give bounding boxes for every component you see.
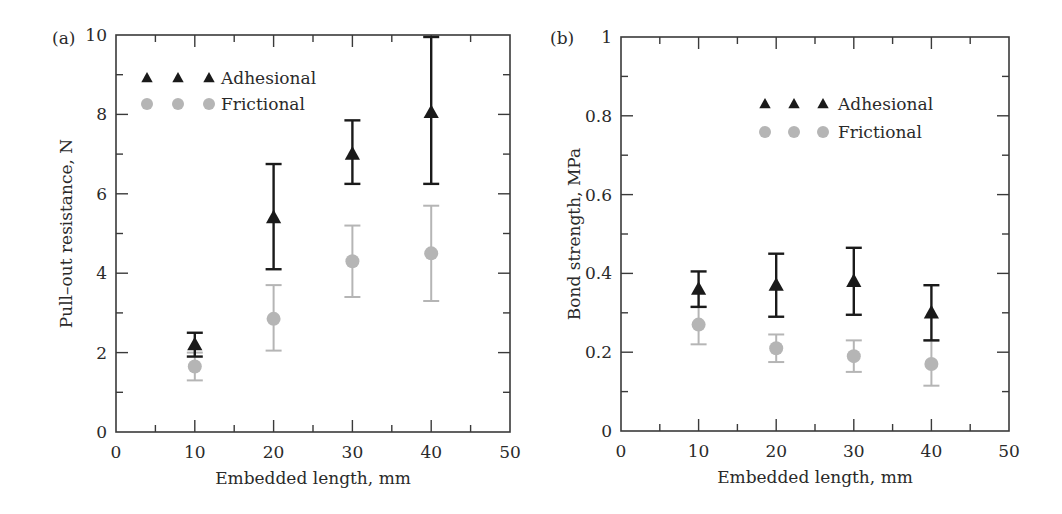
triangle-marker: [187, 337, 202, 351]
panel-label: (b): [550, 28, 574, 48]
triangle-marker-icon: [141, 72, 214, 82]
y-axis-title: Pull–out resistance, N: [56, 139, 76, 329]
circle-icon: [203, 98, 215, 110]
legend-label: Frictional: [221, 94, 305, 114]
x-tick-label: 40: [420, 442, 442, 462]
circle-icon: [759, 126, 771, 138]
legend-item-frictional: Frictional: [759, 122, 922, 142]
triangle-marker: [924, 305, 939, 319]
circle-marker-icon: [141, 98, 215, 110]
y-tick-label: 10: [85, 25, 107, 45]
circle-icon: [788, 126, 800, 138]
y-tick-label: 0: [96, 422, 107, 442]
series-adhesional: [691, 248, 940, 341]
x-tick-label: 40: [921, 441, 943, 461]
triangle-marker-icon: [759, 98, 828, 108]
y-tick-label: 1: [601, 27, 612, 47]
triangle-marker: [424, 104, 439, 118]
legend: Adhesional Frictional: [141, 68, 316, 114]
x-axis-title: Embedded length, mm: [215, 468, 411, 488]
circle-marker-icon: [759, 126, 829, 138]
x-tick-label: 30: [843, 441, 865, 461]
x-tick-label: 0: [616, 441, 627, 461]
circle-marker: [267, 312, 281, 326]
y-tick-label: 0.6: [585, 185, 612, 205]
y-tick-label: 4: [96, 263, 107, 283]
y-tick-label: 0.8: [585, 106, 612, 126]
x-tick-label: 50: [499, 442, 521, 462]
legend-item-adhesional: Adhesional: [141, 68, 316, 88]
triangle-icon: [817, 98, 828, 108]
axes-frame: [621, 37, 1009, 431]
legend-label: Adhesional: [837, 94, 933, 114]
x-axis-title: Embedded length, mm: [717, 467, 913, 487]
circle-marker: [924, 357, 938, 371]
legend-label: Frictional: [838, 122, 922, 142]
triangle-icon: [203, 72, 214, 82]
x-tick-label: 0: [111, 442, 122, 462]
x-tick-label: 20: [263, 442, 285, 462]
axis-tick-labels: 010203040500246810: [85, 25, 520, 462]
circle-marker: [188, 359, 202, 373]
triangle-marker: [691, 281, 706, 295]
circle-marker: [769, 341, 783, 355]
legend-item-adhesional: Adhesional: [759, 94, 933, 114]
y-tick-label: 2: [96, 343, 107, 363]
axes-frame: [116, 35, 510, 432]
y-tick-label: 0.4: [585, 263, 612, 283]
circle-icon: [141, 98, 153, 110]
panel-b-bond-strength: (b) 0102030405000.20.40.60.81 Embedded l…: [550, 27, 1020, 487]
series-frictional: [187, 206, 439, 381]
triangle-marker: [769, 277, 784, 291]
legend: Adhesional Frictional: [759, 94, 933, 142]
axis-tick-labels: 0102030405000.20.40.60.81: [585, 27, 1020, 461]
circle-icon: [817, 126, 829, 138]
y-tick-label: 0.2: [585, 342, 612, 362]
triangle-marker: [266, 210, 281, 224]
figure: (a) 010203040500246810 Embedded length, …: [0, 0, 1062, 514]
x-tick-label: 20: [765, 441, 787, 461]
circle-icon: [172, 98, 184, 110]
plot-frame: [621, 37, 1009, 431]
y-tick-label: 8: [96, 104, 107, 124]
x-tick-label: 30: [342, 442, 364, 462]
x-tick-label: 10: [184, 442, 206, 462]
triangle-marker: [846, 273, 861, 287]
data-series: [691, 248, 940, 386]
triangle-marker: [345, 146, 360, 160]
series-frictional: [691, 307, 940, 386]
triangle-icon: [172, 72, 183, 82]
y-axis-title: Bond strength, MPa: [564, 148, 584, 320]
axis-ticks: [621, 37, 1009, 431]
circle-marker: [847, 349, 861, 363]
circle-marker: [345, 254, 359, 268]
circle-marker: [424, 246, 438, 260]
triangle-icon: [788, 98, 799, 108]
circle-marker: [692, 318, 706, 332]
legend-item-frictional: Frictional: [141, 94, 305, 114]
y-tick-label: 0: [601, 421, 612, 441]
triangle-icon: [141, 72, 152, 82]
legend-label: Adhesional: [220, 68, 316, 88]
panel-label: (a): [52, 28, 75, 48]
x-tick-label: 50: [998, 441, 1020, 461]
panel-a-pullout-resistance: (a) 010203040500246810 Embedded length, …: [52, 25, 521, 488]
axis-ticks: [116, 35, 510, 432]
data-series: [187, 37, 439, 380]
x-tick-label: 10: [688, 441, 710, 461]
triangle-icon: [759, 98, 770, 108]
plot-frame: [116, 35, 510, 432]
y-tick-label: 6: [96, 184, 107, 204]
